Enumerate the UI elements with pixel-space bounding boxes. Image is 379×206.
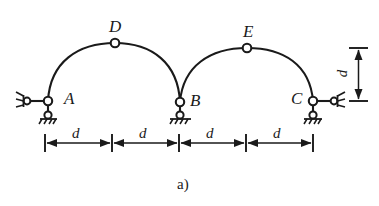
dimension-label-d-vertical: d	[335, 70, 350, 78]
node-label-E: E	[243, 23, 253, 40]
hinge-D	[111, 39, 120, 48]
node-label-A: A	[64, 90, 74, 107]
dimension-label-d-2: d	[139, 126, 147, 141]
support-A-hatching-below	[39, 119, 57, 124]
hinge-E	[243, 44, 252, 53]
dimension-label-d-1: d	[72, 126, 80, 141]
node-label-C: C	[291, 90, 302, 107]
support-A	[16, 92, 57, 124]
support-C-hatching-below	[304, 119, 322, 124]
support-C	[304, 92, 345, 124]
structural-diagram-figure: D E A B C d d d d d a)	[0, 0, 379, 206]
node-label-D: D	[109, 18, 121, 35]
support-A-hatching-left	[16, 92, 24, 107]
figure-caption: a)	[177, 176, 189, 193]
node-label-B: B	[190, 92, 200, 109]
dimension-label-d-3: d	[206, 126, 214, 141]
dimension-vertical	[349, 48, 368, 101]
support-B-hatching-below	[170, 119, 191, 124]
dimension-label-d-4: d	[273, 126, 281, 141]
support-B	[170, 98, 191, 124]
support-C-hatching-right	[338, 92, 346, 107]
